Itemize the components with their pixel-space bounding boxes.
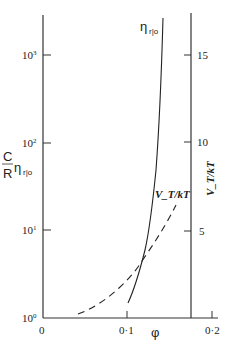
y-left-tick-10: 101 — [22, 224, 37, 236]
x-tick-0: 0 — [39, 324, 45, 336]
y-left-tick-1: 100 — [22, 312, 37, 324]
vt-curve-label: V_T/kT — [155, 188, 191, 200]
y-right-tick-15: 15 — [197, 49, 209, 61]
eta-curve-label: η r|o — [140, 19, 159, 36]
svg-text:r|o: r|o — [149, 27, 159, 36]
y-right-tick-5: 5 — [199, 225, 205, 237]
svg-text:r|o: r|o — [23, 168, 33, 177]
x-axis-label: φ — [151, 325, 159, 340]
x-tick-0.1: 0·1 — [119, 324, 134, 336]
svg-text:R: R — [3, 166, 12, 181]
svg-text:η: η — [14, 160, 21, 175]
eta-curve — [128, 18, 163, 303]
y-left-tick-100: 102 — [22, 137, 37, 149]
y-left-tick-1000: 103 — [22, 49, 37, 61]
svg-text:C: C — [3, 149, 12, 164]
left-ticks — [43, 55, 51, 230]
right-ticks — [184, 55, 191, 231]
y-right-tick-10: 10 — [197, 136, 209, 148]
left-axis-label: C R η r|o — [2, 149, 33, 181]
vt-curve — [78, 205, 176, 314]
chart-canvas: 103 102 101 100 15 10 5 0 0·1 0·2 φ C R … — [0, 0, 236, 351]
right-axis-label: V_T/kT — [204, 160, 216, 196]
svg-text:η: η — [140, 19, 147, 34]
x-ticks — [127, 311, 212, 318]
x-tick-0.2: 0·2 — [205, 324, 220, 336]
